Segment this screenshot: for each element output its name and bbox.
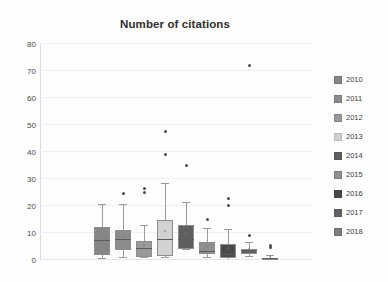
box-plot-2015[interactable]: × [199, 44, 215, 260]
upper-whisker-cap [203, 228, 211, 229]
legend-swatch-icon [334, 76, 342, 84]
legend-swatch-icon [334, 133, 342, 141]
y-tick-label-20: 20 [10, 202, 36, 211]
legend-swatch-icon [334, 114, 342, 122]
legend-swatch-icon [334, 171, 342, 179]
outlier-point [164, 153, 167, 156]
upper-whisker [102, 205, 103, 227]
box-plot-2014[interactable]: × [178, 44, 194, 260]
legend-item-label: 2015 [346, 170, 363, 179]
y-tick-label-10: 10 [10, 229, 36, 238]
legend-swatch-icon [334, 209, 342, 217]
box-iqr [178, 225, 194, 249]
outlier-point [122, 192, 125, 195]
upper-whisker [207, 229, 208, 242]
outlier-point [143, 191, 146, 194]
median-line [157, 239, 173, 240]
upper-whisker [165, 184, 166, 220]
mean-marker: × [121, 235, 125, 239]
legend-item-label: 2010 [346, 75, 363, 84]
legend-swatch-icon [334, 190, 342, 198]
upper-whisker-cap [245, 242, 253, 243]
legend-item-label: 2014 [346, 151, 363, 160]
lower-whisker-cap [161, 257, 169, 258]
legend-item-2012[interactable]: 2012 [334, 108, 382, 127]
upper-whisker-cap [224, 229, 232, 230]
lower-whisker-cap [140, 257, 148, 258]
mean-marker: × [100, 236, 104, 240]
chart-title: Number of citations [60, 18, 290, 30]
y-tick-label-30: 30 [10, 175, 36, 184]
outlier-point [269, 244, 272, 247]
outlier-point [164, 130, 167, 133]
upper-whisker-cap [98, 204, 106, 205]
y-tick-label-50: 50 [10, 121, 36, 130]
box-plot-2013[interactable]: × [157, 44, 173, 260]
median-line [136, 248, 152, 249]
legend-item-2017[interactable]: 2017 [334, 203, 382, 222]
box-plot-2018[interactable]: × [262, 44, 278, 260]
outlier-point [248, 64, 251, 67]
legend-item-label: 2012 [346, 113, 363, 122]
mean-marker: × [163, 229, 167, 233]
mean-marker: × [205, 244, 209, 248]
box-plot-2016[interactable]: × [220, 44, 236, 260]
upper-whisker [144, 226, 145, 241]
legend-item-2013[interactable]: 2013 [334, 127, 382, 146]
mean-marker: × [142, 243, 146, 247]
box-plot-2012[interactable]: × [136, 44, 152, 260]
legend-swatch-icon [334, 228, 342, 236]
legend-item-2014[interactable]: 2014 [334, 146, 382, 165]
upper-whisker [123, 205, 124, 230]
legend-swatch-icon [334, 95, 342, 103]
median-line [220, 254, 236, 255]
outlier-point [206, 218, 209, 221]
y-tick-label-0: 0 [10, 256, 36, 265]
citations-box-plot-chart: Number of citations 01020304050607080 ××… [0, 0, 388, 282]
legend-item-label: 2018 [346, 227, 363, 236]
legend-item-label: 2016 [346, 189, 363, 198]
outlier-point [248, 234, 251, 237]
y-tick-label-40: 40 [10, 148, 36, 157]
box-plot-2011[interactable]: × [115, 44, 131, 260]
y-tick-label-60: 60 [10, 94, 36, 103]
median-line [199, 251, 215, 252]
legend-item-label: 2017 [346, 208, 363, 217]
outlier-point [227, 204, 230, 207]
upper-whisker-cap [119, 204, 127, 205]
lower-whisker-cap [98, 258, 106, 259]
lower-whisker-cap [245, 256, 253, 257]
y-axis-tick-labels: 01020304050607080 [8, 44, 36, 260]
median-line [178, 239, 194, 240]
upper-whisker-cap [182, 202, 190, 203]
upper-whisker-cap [161, 183, 169, 184]
legend-swatch-icon [334, 152, 342, 160]
plot-area: ××××××××× [40, 44, 312, 260]
y-tick-label-80: 80 [10, 40, 36, 49]
legend-item-2010[interactable]: 2010 [334, 70, 382, 89]
box-plot-2010[interactable]: × [94, 44, 110, 260]
outlier-point [143, 187, 146, 190]
y-tick-label-70: 70 [10, 67, 36, 76]
lower-whisker-cap [119, 257, 127, 258]
mean-marker: × [247, 247, 251, 251]
mean-marker: × [268, 254, 272, 258]
upper-whisker [228, 230, 229, 245]
box-iqr [157, 220, 173, 257]
upper-whisker [186, 203, 187, 225]
legend-item-label: 2011 [346, 94, 362, 103]
legend-item-2015[interactable]: 2015 [334, 165, 382, 184]
box-plot-2017[interactable]: × [241, 44, 257, 260]
mean-marker: × [184, 231, 188, 235]
outlier-point [227, 197, 230, 200]
legend-item-label: 2013 [346, 132, 363, 141]
legend: 201020112012201320142015201620172018 [334, 70, 382, 241]
lower-whisker-cap [203, 257, 211, 258]
legend-item-2016[interactable]: 2016 [334, 184, 382, 203]
mean-marker: × [226, 246, 230, 250]
upper-whisker-cap [140, 225, 148, 226]
legend-item-2018[interactable]: 2018 [334, 222, 382, 241]
lower-whisker-cap [182, 249, 190, 250]
legend-item-2011[interactable]: 2011 [334, 89, 382, 108]
outlier-point [185, 164, 188, 167]
